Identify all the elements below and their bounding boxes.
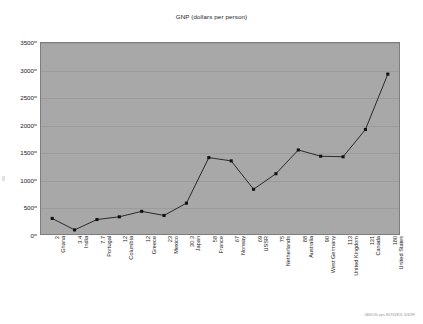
x-axis-tick-country: Mexico xyxy=(173,236,179,314)
y-axis-tick-label: 3500 xyxy=(20,39,34,46)
data-series-line xyxy=(41,43,399,234)
x-axis-tick-country: Canada xyxy=(375,236,381,314)
y-axis-tick-label: 500 xyxy=(24,204,34,211)
x-axis-tick-number: 7.7 xyxy=(100,236,106,314)
data-point-marker xyxy=(274,172,277,175)
x-axis-tick-country: United Kingdom xyxy=(353,236,359,314)
x-axis-tick-number: 12 xyxy=(145,236,151,314)
data-point-marker xyxy=(297,148,300,151)
y-axis-tick-mark xyxy=(34,207,37,208)
data-point-marker xyxy=(185,202,188,205)
x-axis-tick-country: Columbia xyxy=(128,236,134,314)
y-axis-tick-label: 1500 xyxy=(20,149,34,156)
x-axis-tick-label: 58France xyxy=(212,236,224,314)
x-axis-tick-number: 88 xyxy=(302,236,308,314)
y-axis-tick-mark xyxy=(34,97,37,98)
y-axis-tick-mark xyxy=(34,124,37,125)
x-axis-tick-label: 7.7Portugal xyxy=(100,236,112,314)
x-axis-tick-label: 3Ghana xyxy=(54,236,66,314)
x-axis-tick-label: 88Australia xyxy=(302,236,314,314)
x-axis-tick-number: 113 xyxy=(347,236,353,314)
x-axis-tick-label: 23Mexico xyxy=(167,236,179,314)
y-axis: 0500100015002000250030003500 xyxy=(0,42,37,235)
x-axis-tick-country: Netherlands xyxy=(285,236,291,314)
x-axis-tick-country: Portugal xyxy=(106,236,112,314)
data-point-marker xyxy=(207,156,210,159)
data-point-marker xyxy=(73,228,76,231)
x-axis-tick-country: France xyxy=(218,236,224,314)
x-axis-tick-label: 75Netherlands xyxy=(279,236,291,314)
data-point-marker xyxy=(163,214,166,217)
y-axis-tick-mark xyxy=(34,152,37,153)
y-axis-tick-mark xyxy=(34,235,37,236)
x-axis-tick-country: United States xyxy=(398,236,404,314)
x-axis-tick-number: 69 xyxy=(257,236,263,314)
x-axis-tick-number: 58 xyxy=(212,236,218,314)
plot-area xyxy=(40,42,400,235)
y-axis-tick-mark xyxy=(34,69,37,70)
x-axis-tick-label: 90West Germany xyxy=(324,236,336,314)
x-axis-tick-label: 69USSR xyxy=(257,236,269,314)
x-axis-tick-country: India xyxy=(83,236,89,314)
y-axis-tick-label: 2000 xyxy=(20,121,34,128)
x-axis-tick-country: West Germany xyxy=(330,236,336,314)
x-axis-tick-country: Australia xyxy=(308,236,314,314)
x-axis-tick-country: USSR xyxy=(263,236,269,314)
x-axis-tick-label: 30.3Japan xyxy=(189,236,201,314)
data-point-marker xyxy=(319,155,322,158)
x-axis-tick-number: 180 xyxy=(392,236,398,314)
footer-document-id: 080/t20.sps 80762811 4/6/99 xyxy=(365,313,415,317)
series-line xyxy=(52,74,388,230)
x-axis-tick-label: 113United Kingdom xyxy=(347,236,359,314)
y-axis-tick-label: 3000 xyxy=(20,66,34,73)
chart-title: GNP (dollars per person) xyxy=(0,13,423,20)
data-point-marker xyxy=(230,159,233,162)
data-point-marker xyxy=(51,217,54,220)
y-axis-tick-mark xyxy=(34,42,37,43)
x-axis-tick-label: 180United States xyxy=(392,236,404,314)
y-axis-tick-label: 1000 xyxy=(20,176,34,183)
data-point-marker xyxy=(364,128,367,131)
data-point-marker xyxy=(95,218,98,221)
data-point-marker xyxy=(252,188,255,191)
x-axis-tick-label: 12Greece xyxy=(145,236,157,314)
x-axis-tick-label: 3.4India xyxy=(77,236,89,314)
x-axis-tick-country: Greece xyxy=(151,236,157,314)
x-axis-tick-country: Japan xyxy=(195,236,201,314)
x-axis-tick-label: 12Columbia xyxy=(122,236,134,314)
x-axis: 3Ghana3.4India7.7Portugal12Columbia12Gre… xyxy=(40,236,400,314)
data-point-marker xyxy=(140,210,143,213)
data-point-marker xyxy=(342,155,345,158)
chart-figure: GNP (dollars per person) 050010001500200… xyxy=(0,0,423,324)
y-axis-tick-label: 2500 xyxy=(20,94,34,101)
x-axis-tick-country: Norway xyxy=(240,236,246,314)
x-axis-tick-label: 131Canada xyxy=(369,236,381,314)
y-axis-tick-mark xyxy=(34,179,37,180)
data-point-marker xyxy=(386,73,389,76)
page-edge-artifact xyxy=(2,176,5,181)
x-axis-tick-label: 67Norway xyxy=(234,236,246,314)
x-axis-tick-country: Ghana xyxy=(60,236,66,314)
data-point-marker xyxy=(118,215,121,218)
